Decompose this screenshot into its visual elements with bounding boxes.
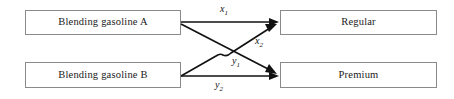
edge-label-y1: y1 <box>232 56 240 69</box>
blending-diagram: Blending gasoline A Blending gasoline B … <box>0 0 454 99</box>
edge-y2 <box>181 72 279 80</box>
edge-label-y2: y2 <box>215 80 223 93</box>
edge-label-x2: x2 <box>255 36 263 49</box>
edge-x1 <box>181 18 279 26</box>
edge-y1 <box>181 24 277 74</box>
edge-label-x1: x1 <box>220 4 228 17</box>
